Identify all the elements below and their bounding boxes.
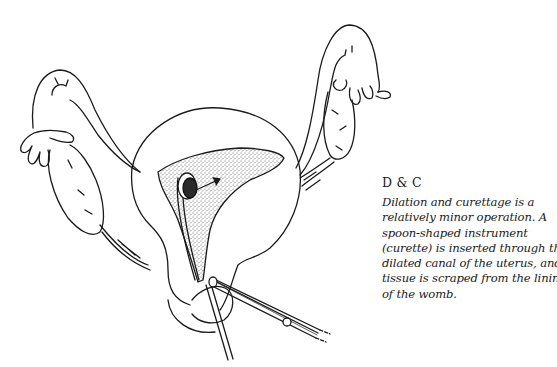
right-fimbriae	[334, 80, 391, 104]
caption-block: D & C Dilation and curettage is a relati…	[382, 175, 557, 302]
caption-line: dilated canal of the uterus, and	[382, 256, 557, 271]
right-ligament	[300, 158, 334, 190]
caption-line: relatively minor operation. A	[382, 210, 557, 225]
caption-title: D & C	[382, 175, 557, 191]
left-ligament	[100, 225, 150, 270]
caption-body: Dilation and curettage is a relatively m…	[382, 195, 557, 302]
right-fallopian-tube	[296, 25, 380, 175]
tissue-clump	[183, 178, 197, 198]
caption-line: (curette) is inserted through the	[382, 241, 557, 256]
caption-line: Dilation and curettage is a	[382, 195, 557, 210]
uterine-cavity	[158, 148, 284, 282]
caption-line: spoon-shaped instrument	[382, 226, 557, 241]
curette-handle	[209, 277, 330, 342]
left-ovary	[48, 145, 103, 234]
caption-line: tissue is scraped from the lining	[382, 271, 557, 286]
left-fimbriae	[21, 131, 74, 167]
caption-line: of the womb.	[382, 287, 557, 302]
